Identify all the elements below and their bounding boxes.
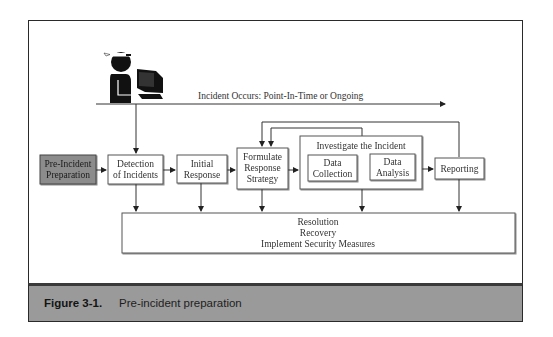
node-label: Initial bbox=[191, 159, 214, 169]
node-label: Analysis bbox=[376, 168, 410, 178]
node-initial-response: Initial Response bbox=[177, 155, 227, 183]
node-label: Response bbox=[244, 163, 280, 173]
figure-number: Figure 3-1. bbox=[44, 297, 102, 309]
node-detection-of-incidents: Detection of Incidents bbox=[108, 155, 163, 184]
node-label: Preparation bbox=[46, 170, 90, 180]
node-label: Detection bbox=[117, 159, 154, 169]
investigate-title: Investigate the Incident bbox=[316, 141, 406, 151]
node-label: Collection bbox=[313, 169, 353, 179]
node-label: Resolution bbox=[297, 217, 338, 227]
node-formulate-response-strategy: Formulate Response Strategy bbox=[237, 148, 288, 189]
hacker-at-computer-icon bbox=[104, 52, 163, 103]
node-label: Data bbox=[324, 158, 343, 168]
figure-caption-bar: Figure 3-1. Pre-incident preparation bbox=[28, 283, 523, 322]
figure-caption: Pre-incident preparation bbox=[119, 297, 242, 309]
node-reporting: Reporting bbox=[435, 158, 484, 179]
node-label: Pre-Incident bbox=[45, 159, 92, 169]
node-label: Recovery bbox=[300, 228, 337, 238]
node-label: of Incidents bbox=[113, 170, 158, 180]
node-label: Reporting bbox=[441, 164, 479, 174]
node-data-analysis: Data Analysis bbox=[370, 154, 415, 180]
node-pre-incident-preparation: Pre-Incident Preparation bbox=[40, 155, 96, 184]
node-resolution-recovery: Resolution Recovery Implement Security M… bbox=[122, 213, 515, 253]
timeline-label: Incident Occurs: Point-In-Time or Ongoin… bbox=[198, 91, 364, 101]
node-label: Implement Security Measures bbox=[261, 239, 375, 249]
node-data-collection: Data Collection bbox=[308, 155, 357, 181]
node-label: Data bbox=[384, 157, 403, 167]
node-label: Strategy bbox=[247, 174, 279, 184]
node-label: Response bbox=[184, 170, 220, 180]
node-label: Formulate bbox=[243, 152, 282, 162]
